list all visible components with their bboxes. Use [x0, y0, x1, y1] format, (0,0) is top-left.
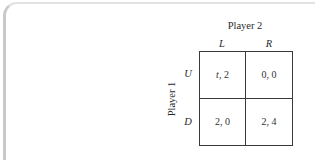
payoff-cell-u-r: 0, 0: [246, 52, 292, 99]
payoff-cell-d-l: 2, 0: [200, 99, 246, 146]
player2-payoff: 0: [225, 116, 230, 127]
player2-payoff: 4: [272, 116, 277, 127]
player2-payoff: 0: [272, 69, 277, 80]
payoff-matrix: t, 2 0, 0 2, 0 2, 4: [199, 51, 293, 146]
row-player-label: Player 1: [165, 69, 179, 129]
payoff-cell-d-r: 2, 4: [246, 99, 292, 146]
payoff-cell-u-l: t, 2: [200, 52, 246, 99]
column-strategy-r: R: [246, 37, 292, 51]
column-player-label: Player 2: [200, 19, 290, 33]
row-strategy-d: D: [182, 115, 194, 129]
payoff-matrix-figure: Player 2 L R Player 1 U D t, 2 0, 0 2, 0…: [0, 0, 315, 160]
player2-payoff: 2: [224, 69, 229, 80]
column-strategy-l: L: [199, 37, 245, 51]
row-strategy-u: U: [182, 67, 194, 81]
